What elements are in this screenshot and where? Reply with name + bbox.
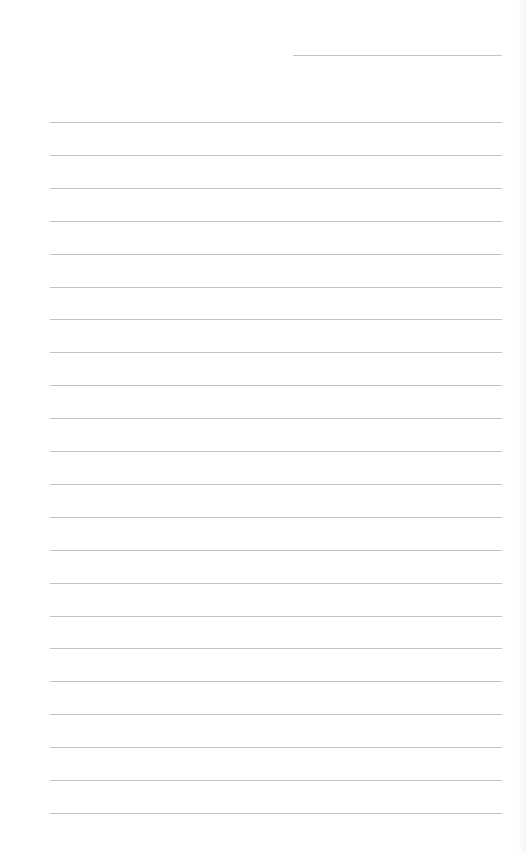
- ruled-line[interactable]: [50, 418, 502, 419]
- ruled-line[interactable]: [50, 583, 502, 584]
- ruled-line[interactable]: [50, 122, 502, 123]
- ruled-line[interactable]: [50, 188, 502, 189]
- ruled-line[interactable]: [50, 780, 502, 781]
- lined-page: [0, 0, 526, 852]
- ruled-line[interactable]: [50, 616, 502, 617]
- ruled-line[interactable]: [50, 319, 502, 320]
- ruled-line[interactable]: [50, 385, 502, 386]
- ruled-line[interactable]: [50, 155, 502, 156]
- ruled-line[interactable]: [50, 221, 502, 222]
- ruled-line[interactable]: [50, 254, 502, 255]
- ruled-line[interactable]: [50, 681, 502, 682]
- ruled-line[interactable]: [50, 747, 502, 748]
- ruled-line[interactable]: [50, 484, 502, 485]
- ruled-lines-area: [0, 0, 526, 852]
- ruled-line[interactable]: [50, 550, 502, 551]
- ruled-line[interactable]: [50, 451, 502, 452]
- page-edge: [518, 0, 526, 852]
- ruled-line[interactable]: [50, 648, 502, 649]
- ruled-line[interactable]: [50, 287, 502, 288]
- ruled-line[interactable]: [50, 714, 502, 715]
- ruled-line[interactable]: [50, 813, 502, 814]
- ruled-line[interactable]: [50, 517, 502, 518]
- ruled-line[interactable]: [50, 352, 502, 353]
